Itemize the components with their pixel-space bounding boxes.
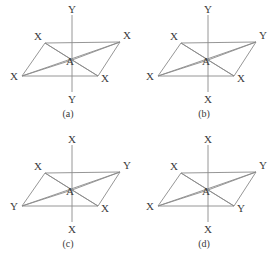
edge-left: [22, 43, 45, 76]
ligand-bottom-right: Y: [237, 203, 245, 214]
ligand-bottom-right: X: [101, 203, 109, 214]
panel-caption: (a): [0, 108, 136, 119]
panel-d: X X Y X Y X A (d): [136, 130, 272, 260]
ligand-bottom-right: X: [101, 73, 109, 84]
ligand-top-left: X: [34, 31, 42, 42]
edge-left: [158, 173, 181, 206]
panel-a: Y X X X X Y A (a): [0, 0, 136, 130]
ligand-top-right: Y: [259, 160, 267, 171]
ligand-bottom-right: X: [237, 73, 245, 84]
panel-b: Y X Y X X X A (b): [136, 0, 272, 130]
ligand-top-left: X: [170, 161, 178, 172]
center-atom: A: [202, 56, 210, 67]
ligand-bottom-left: Y: [10, 201, 18, 212]
ligand-top-right: Y: [259, 30, 267, 41]
ligand-axial-top: X: [68, 134, 76, 145]
panel-caption: (d): [136, 238, 272, 249]
panel-c: X X Y Y X X A (c): [0, 130, 136, 260]
ligand-bottom-left: X: [146, 201, 154, 212]
panel-caption: (b): [136, 108, 272, 119]
ligand-axial-bottom: X: [204, 94, 212, 105]
edge-left: [22, 173, 45, 206]
center-atom: A: [66, 186, 74, 197]
edge-top: [45, 172, 120, 173]
ligand-axial-bottom: X: [204, 224, 212, 235]
ligand-axial-top: X: [204, 134, 212, 145]
ligand-top-right: X: [123, 30, 131, 41]
ligand-axial-bottom: X: [68, 224, 76, 235]
center-atom: A: [66, 56, 74, 67]
edge-top: [181, 42, 256, 43]
center-atom: A: [202, 186, 210, 197]
isomer-figure: Y X X X X Y A (a) Y X Y: [0, 0, 273, 260]
ligand-top-right: Y: [123, 160, 131, 171]
edge-top: [181, 172, 256, 173]
edge-left: [158, 43, 181, 76]
ligand-axial-top: Y: [68, 4, 76, 15]
ligand-axial-bottom: Y: [68, 94, 76, 105]
ligand-top-left: X: [34, 161, 42, 172]
ligand-bottom-left: X: [10, 71, 18, 82]
ligand-top-left: X: [170, 31, 178, 42]
panel-caption: (c): [0, 238, 136, 249]
ligand-axial-top: Y: [204, 4, 212, 15]
edge-top: [45, 42, 120, 43]
ligand-bottom-left: X: [146, 71, 154, 82]
